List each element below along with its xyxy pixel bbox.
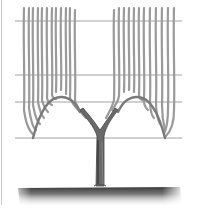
right-canes — [106, 8, 174, 136]
left-canes — [24, 8, 86, 135]
trunk — [80, 108, 118, 186]
ground — [18, 186, 182, 208]
vine-illustration — [0, 0, 199, 217]
